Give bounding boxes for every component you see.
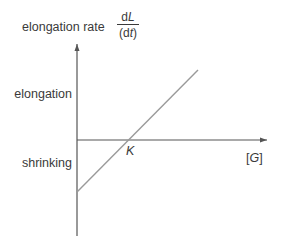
shrinking-region-label: shrinking [22,157,72,170]
x-axis-var: G [249,151,259,165]
fraction-numerator: dL [119,11,136,24]
numerator-d: d [121,10,128,24]
diagram-canvas [0,0,281,246]
numerator-var: L [128,10,135,24]
denominator-close: ) [133,26,137,40]
x-axis-label: [G] [246,152,263,165]
y-axis-title-text: elongation rate [22,20,105,34]
y-axis-fraction: dL (dt) [117,11,139,39]
denominator-open: (d [119,26,130,40]
rate-line [77,70,198,192]
fraction-denominator: (dt) [119,25,137,39]
y-axis-title: elongation rate [22,21,105,34]
intercept-k-label: K [126,145,134,158]
elongation-region-label: elongation [14,88,72,101]
bracket-close: ] [259,151,262,165]
